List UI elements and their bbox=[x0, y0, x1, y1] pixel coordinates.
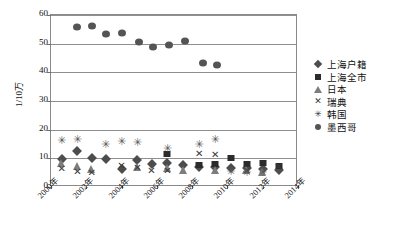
data-point: ✳ bbox=[101, 141, 111, 151]
y-tickmark bbox=[47, 101, 51, 102]
data-point bbox=[149, 44, 157, 51]
legend-item-diamond[interactable]: 上海户籍 bbox=[312, 58, 398, 71]
legend-item-circle[interactable]: 墨西哥 bbox=[312, 121, 398, 134]
data-point bbox=[102, 30, 110, 37]
data-point bbox=[211, 166, 219, 174]
y-tick-label: 30 bbox=[22, 95, 48, 104]
diamond-icon bbox=[312, 58, 324, 70]
data-point bbox=[118, 29, 126, 36]
data-point bbox=[196, 162, 203, 168]
data-point bbox=[213, 62, 221, 69]
y-tickmark bbox=[47, 158, 51, 159]
triangle-icon bbox=[312, 83, 324, 95]
legend-item-square[interactable]: 上海全市 bbox=[312, 71, 398, 84]
y-tick-label: 20 bbox=[22, 124, 48, 133]
data-point: ✳ bbox=[210, 136, 220, 146]
y-tickmark bbox=[47, 15, 51, 16]
legend-item-triangle[interactable]: 日本 bbox=[312, 83, 398, 96]
data-point bbox=[135, 38, 143, 45]
data-point: ✳ bbox=[72, 136, 82, 146]
data-point bbox=[179, 166, 187, 174]
data-point: ✳ bbox=[162, 145, 172, 155]
data-point: ✕ bbox=[132, 164, 142, 174]
gridline bbox=[51, 72, 296, 73]
scatter-chart: 1/10万 0102030405060 ✕✕✕✕✕✕✕✕✕✕✕✳✳✳✳✳✳✳✳✳… bbox=[0, 0, 399, 234]
legend-item-cross[interactable]: ✕瑞典 bbox=[312, 96, 398, 109]
data-point: ✳ bbox=[117, 138, 127, 148]
data-point bbox=[199, 59, 207, 66]
data-point: ✳ bbox=[57, 137, 67, 147]
data-point bbox=[165, 42, 173, 49]
y-tick-label: 60 bbox=[22, 9, 48, 18]
data-point: ✳ bbox=[242, 169, 252, 179]
legend-label: 墨西哥 bbox=[327, 120, 357, 134]
y-tickmark bbox=[47, 44, 51, 45]
chart-legend: 上海户籍上海全市日本✕瑞典✳韩国墨西哥 bbox=[312, 58, 398, 133]
gridline bbox=[51, 15, 296, 16]
cross-icon: ✕ bbox=[312, 96, 324, 108]
square-icon bbox=[312, 71, 324, 83]
data-point: ✕ bbox=[117, 162, 127, 172]
data-point bbox=[227, 155, 234, 161]
data-point: ✕ bbox=[210, 151, 220, 161]
y-tick-label: 10 bbox=[22, 152, 48, 161]
data-point: ✕ bbox=[57, 165, 67, 175]
circle-icon bbox=[312, 121, 324, 133]
data-point: ✕ bbox=[194, 150, 204, 160]
data-point: ✳ bbox=[194, 141, 204, 151]
gridline bbox=[51, 44, 296, 45]
plot-area: ✕✕✕✕✕✕✕✕✕✕✕✳✳✳✳✳✳✳✳✳✳✳ bbox=[50, 14, 297, 186]
data-point: ✳ bbox=[132, 139, 142, 149]
data-point bbox=[73, 24, 81, 31]
data-point bbox=[181, 37, 189, 44]
y-tickmark bbox=[47, 130, 51, 131]
data-point: ✕ bbox=[274, 163, 284, 173]
data-point bbox=[101, 154, 111, 164]
y-tickmark bbox=[47, 72, 51, 73]
data-point bbox=[88, 22, 96, 29]
gridline bbox=[51, 101, 296, 102]
y-tick-label: 40 bbox=[22, 66, 48, 75]
legend-item-star[interactable]: ✳韩国 bbox=[312, 108, 398, 121]
star-icon: ✳ bbox=[312, 108, 324, 120]
data-point: ✕ bbox=[162, 167, 172, 177]
data-point bbox=[73, 147, 83, 157]
gridline bbox=[51, 130, 296, 131]
data-point bbox=[87, 153, 97, 163]
y-tick-label: 50 bbox=[22, 38, 48, 47]
data-point: ✕ bbox=[72, 168, 82, 178]
